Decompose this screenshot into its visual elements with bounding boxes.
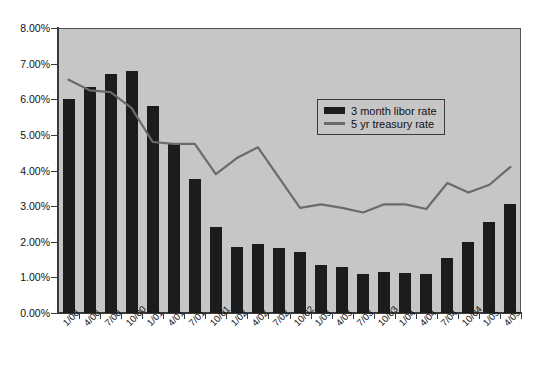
y-tick [51,64,58,65]
bar [147,106,159,313]
y-tick-label: 7.00% [4,59,50,69]
bar [462,242,474,313]
bar [84,87,96,313]
y-tick-label: 0.00% [4,308,50,318]
y-tick-label: 4.00% [4,166,50,176]
y-tick [51,171,58,172]
y-tick-label: 5.00% [4,130,50,140]
y-tick [51,135,58,136]
bar [105,74,117,313]
bar [126,71,138,313]
y-tick-label: 1.00% [4,272,50,282]
legend-label-libor: 3 month libor rate [351,105,437,117]
y-tick-label: 6.00% [4,94,50,104]
legend-label-treasury: 5 yr treasury rate [351,118,434,130]
bar [63,99,75,313]
y-tick [51,206,58,207]
bar [441,258,453,313]
y-tick-label: 8.00% [4,23,50,33]
legend-item-treasury: 5 yr treasury rate [324,117,437,130]
legend-item-libor: 3 month libor rate [324,104,437,117]
bar [336,267,348,313]
bar [294,252,306,313]
y-axis-labels: 0.00%1.00%2.00%3.00%4.00%5.00%6.00%7.00%… [0,0,50,365]
y-tick-label: 2.00% [4,237,50,247]
y-tick [51,313,58,314]
bar [357,274,369,313]
bar [231,247,243,313]
bar [210,227,222,313]
y-tick [51,277,58,278]
bar [168,144,180,313]
interest-rate-chart: 0.00%1.00%2.00%3.00%4.00%5.00%6.00%7.00%… [0,0,543,365]
y-tick-label: 3.00% [4,201,50,211]
bar [420,274,432,313]
y-tick [51,242,58,243]
bar [378,272,390,313]
bar [315,265,327,313]
bar-swatch-icon [324,107,345,114]
bar [189,179,201,313]
bar [483,222,495,313]
line-swatch-icon [324,122,345,125]
bar [399,273,411,313]
y-tick [51,28,58,29]
bar [504,204,516,313]
y-tick [51,99,58,100]
bar [252,244,264,313]
bar [273,248,285,313]
chart-legend: 3 month libor rate 5 yr treasury rate [317,99,445,135]
